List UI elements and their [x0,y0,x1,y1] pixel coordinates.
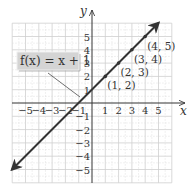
x-axis-label: x [180,104,187,118]
x-tick-label: 3 [129,105,135,116]
point-marker [117,61,121,65]
y-tick-label: −4 [75,151,90,162]
y-tick-label: 2 [84,71,90,82]
y-axis-label: y [79,4,87,18]
coordinate-graph: x y −5−4−3−2−112345 54321−1−2−3−4−5 (1, … [0,0,196,189]
point-label: (4, 5) [147,40,175,52]
y-tick-label: −3 [75,138,90,149]
point-marker [130,48,134,52]
point-label: (2, 3) [121,66,149,78]
point-label: (3, 4) [134,53,162,65]
y-tick-label: 5 [84,32,90,43]
function-label: f(x) = x + 1 [20,54,90,68]
x-tick-label: 4 [142,105,148,116]
y-tick-label: −2 [75,125,90,136]
point-label: (1, 2) [107,79,135,91]
point-marker [104,75,108,79]
x-tick-label: 5 [155,105,161,116]
y-tick-label: −1 [75,111,90,122]
x-tick-label: 2 [115,105,121,116]
y-tick-label: −5 [75,165,90,176]
point-marker [143,35,147,39]
x-tick-label: 1 [102,105,108,116]
